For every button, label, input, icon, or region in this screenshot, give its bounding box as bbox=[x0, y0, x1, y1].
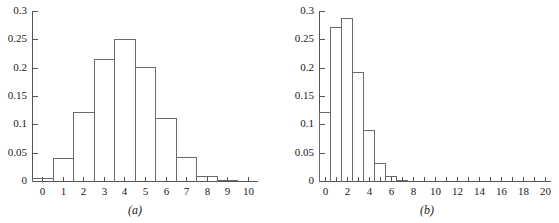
histogram-a-plot: 00.050.10.150.20.250.3012345678910 bbox=[0, 0, 280, 200]
histogram-bar bbox=[353, 73, 364, 182]
histogram-bar bbox=[156, 119, 177, 182]
x-tick-label: 1 bbox=[61, 185, 67, 197]
x-tick-label: 7 bbox=[184, 185, 190, 197]
y-tick-label: 0.3 bbox=[13, 4, 27, 16]
x-tick-label: 18 bbox=[518, 185, 530, 197]
figure-two-histograms: 00.050.10.150.20.250.3012345678910 (a) 0… bbox=[0, 0, 559, 223]
y-tick-label: 0.15 bbox=[8, 89, 28, 101]
x-tick-label: 3 bbox=[102, 185, 108, 197]
y-tick-label: 0.25 bbox=[8, 32, 28, 44]
histogram-bar bbox=[320, 113, 331, 182]
x-tick-label: 6 bbox=[164, 185, 170, 197]
x-tick-label: 20 bbox=[540, 185, 552, 197]
histogram-bar bbox=[95, 60, 115, 182]
y-tick-label: 0.05 bbox=[8, 146, 28, 158]
x-tick-label: 4 bbox=[367, 185, 373, 197]
x-tick-label: 8 bbox=[205, 185, 211, 197]
panel-a-caption: (a) bbox=[0, 203, 275, 218]
y-tick-label: 0.3 bbox=[300, 4, 314, 16]
x-tick-label: 5 bbox=[143, 185, 149, 197]
x-tick-label: 0 bbox=[323, 185, 329, 197]
x-tick-label: 8 bbox=[411, 185, 417, 197]
y-tick-label: 0.15 bbox=[295, 89, 315, 101]
x-tick-label: 10 bbox=[243, 185, 255, 197]
histogram-b-plot: 00.050.10.150.20.250.302468101214161820 bbox=[279, 0, 559, 200]
histogram-panel-b: 00.050.10.150.20.250.302468101214161820 … bbox=[279, 0, 559, 223]
x-tick-label: 6 bbox=[389, 185, 395, 197]
x-tick-label: 2 bbox=[345, 185, 351, 197]
y-tick-label: 0.1 bbox=[300, 117, 314, 129]
y-tick-label: 0.2 bbox=[300, 61, 314, 73]
panel-b-caption: (b) bbox=[287, 203, 559, 218]
histogram-bar bbox=[331, 28, 342, 182]
histogram-bar bbox=[115, 40, 136, 182]
x-tick-label: 12 bbox=[452, 185, 463, 197]
x-tick-label: 16 bbox=[496, 185, 508, 197]
y-tick-label: 0.2 bbox=[13, 61, 27, 73]
x-tick-label: 4 bbox=[122, 185, 128, 197]
y-tick-label: 0 bbox=[309, 174, 315, 186]
histogram-bar bbox=[342, 19, 353, 182]
histogram-bar bbox=[74, 113, 95, 182]
histogram-bar bbox=[364, 131, 375, 182]
x-tick-label: 10 bbox=[430, 185, 442, 197]
histogram-bar bbox=[136, 68, 156, 182]
x-tick-label: 14 bbox=[474, 185, 486, 197]
y-tick-label: 0.1 bbox=[13, 117, 27, 129]
y-tick-label: 0.05 bbox=[295, 146, 315, 158]
histogram-panel-a: 00.050.10.150.20.250.3012345678910 (a) bbox=[0, 0, 280, 223]
y-tick-label: 0.25 bbox=[295, 32, 315, 44]
y-tick-label: 0 bbox=[22, 174, 28, 186]
x-tick-label: 9 bbox=[225, 185, 231, 197]
x-tick-label: 2 bbox=[81, 185, 87, 197]
x-tick-label: 0 bbox=[40, 185, 46, 197]
